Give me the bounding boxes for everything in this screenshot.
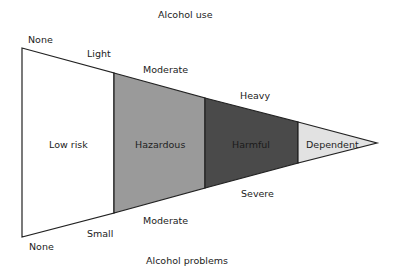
zone-label-low-risk: Low risk (49, 140, 88, 150)
top-label-heavy: Heavy (240, 91, 270, 101)
bottom-label-none: None (29, 242, 54, 252)
top-axis-title: Alcohol use (158, 10, 212, 20)
bottom-axis-title: Alcohol problems (146, 256, 228, 266)
zone-label-hazardous: Hazardous (135, 140, 185, 150)
bottom-label-small: Small (87, 229, 113, 239)
top-label-light: Light (87, 49, 111, 59)
bottom-label-severe: Severe (241, 189, 274, 199)
risk-wedge-diagram (0, 0, 401, 275)
bottom-label-moderate: Moderate (143, 216, 188, 226)
top-label-none: None (28, 35, 53, 45)
top-label-moderate: Moderate (143, 65, 188, 75)
zone-label-harmful: Harmful (232, 140, 270, 150)
zone-label-dependent: Dependent (306, 140, 359, 150)
